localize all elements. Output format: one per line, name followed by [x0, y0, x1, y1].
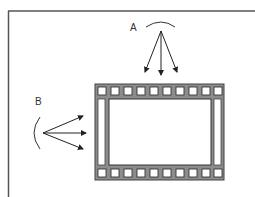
- arrows-a-icon: [145, 31, 177, 75]
- film-right-margin: [214, 99, 221, 165]
- film-strip: [95, 84, 224, 180]
- source-b-arc: [34, 117, 40, 149]
- film-left-margin: [98, 99, 105, 165]
- label-a: A: [130, 22, 137, 33]
- source-a-arc: [146, 22, 175, 27]
- label-b: B: [35, 96, 42, 107]
- light-source-b: B: [34, 96, 86, 149]
- light-source-a: A: [130, 22, 177, 75]
- film-frame: [109, 99, 211, 165]
- diagram-canvas: A B: [0, 0, 255, 197]
- arrows-b-icon: [43, 116, 86, 149]
